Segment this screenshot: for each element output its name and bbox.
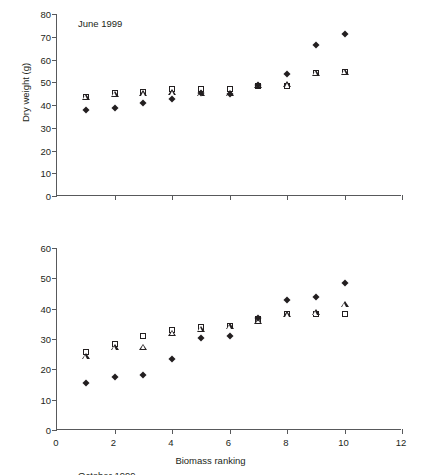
y-tick <box>52 248 57 249</box>
x-tick-label: 8 <box>283 437 288 448</box>
x-tick <box>402 429 403 434</box>
y-tick-label: 30 <box>40 334 51 345</box>
y-tick-label: 20 <box>40 145 51 156</box>
x-tick <box>230 429 231 434</box>
data-point-triangle <box>168 89 176 95</box>
y-tick <box>52 37 57 38</box>
y-tick-label: 60 <box>40 54 51 65</box>
data-point-triangle <box>139 344 147 350</box>
y-tick <box>52 369 57 370</box>
x-tick <box>345 429 346 434</box>
x-tick-label: 6 <box>226 437 231 448</box>
y-tick-label: 40 <box>40 100 51 111</box>
data-point-triangle <box>283 81 291 87</box>
y-tick <box>52 196 57 197</box>
x-tick-label: 12 <box>396 437 407 448</box>
y-tick <box>52 400 57 401</box>
data-point-triangle <box>82 94 90 100</box>
data-point-diamond <box>168 355 175 362</box>
y-tick <box>52 339 57 340</box>
data-point-diamond <box>140 372 147 379</box>
y-tick <box>52 173 57 174</box>
x-tick <box>287 195 288 200</box>
data-point-triangle <box>226 323 234 329</box>
y-tick <box>52 278 57 279</box>
data-point-diamond <box>111 105 118 112</box>
y-tick <box>52 128 57 129</box>
y-tick-label: 0 <box>46 191 51 202</box>
x-tick <box>172 429 173 434</box>
data-point-diamond <box>82 107 89 114</box>
panel-title-october: October 1999 <box>78 470 136 475</box>
y-tick <box>52 430 57 431</box>
data-point-diamond <box>168 96 175 103</box>
data-point-diamond <box>226 333 233 340</box>
data-point-triangle <box>312 309 320 315</box>
data-point-diamond <box>312 42 319 49</box>
y-tick <box>52 82 57 83</box>
data-point-diamond <box>283 296 290 303</box>
data-point-diamond <box>341 279 348 286</box>
data-point-diamond <box>111 373 118 380</box>
data-point-triangle <box>139 90 147 96</box>
data-point-triangle <box>312 70 320 76</box>
y-tick-label: 70 <box>40 31 51 42</box>
data-point-triangle <box>111 91 119 97</box>
y-tick <box>52 151 57 152</box>
data-point-diamond <box>140 100 147 107</box>
data-point-diamond <box>283 71 290 78</box>
data-point-diamond <box>226 91 233 98</box>
y-tick-label: 10 <box>40 168 51 179</box>
y-tick-label: 60 <box>40 243 51 254</box>
x-tick <box>345 195 346 200</box>
x-tick <box>172 195 173 200</box>
data-point-diamond <box>341 31 348 38</box>
x-tick-label: 10 <box>338 437 349 448</box>
y-tick-label: 20 <box>40 364 51 375</box>
data-point-square <box>140 333 146 339</box>
y-tick-label: 10 <box>40 394 51 405</box>
data-point-square <box>342 311 348 317</box>
x-tick-label: 0 <box>53 437 58 448</box>
data-point-triangle <box>111 344 119 350</box>
y-tick-label: 30 <box>40 122 51 133</box>
y-tick <box>52 60 57 61</box>
data-point-triangle <box>168 330 176 336</box>
panel-june-1999: June 1999 Dry weight (g) 010203040506070… <box>0 0 421 225</box>
x-tick <box>402 195 403 200</box>
y-axis-label-top: Dry weight (g) <box>20 63 31 122</box>
y-tick-label: 50 <box>40 77 51 88</box>
data-point-diamond <box>82 379 89 386</box>
x-tick-label: 4 <box>168 437 173 448</box>
y-tick <box>52 105 57 106</box>
x-axis-label: Biomass ranking <box>0 455 421 466</box>
y-tick <box>52 14 57 15</box>
y-tick-label: 80 <box>40 9 51 20</box>
figure-scatter-panels: June 1999 Dry weight (g) 010203040506070… <box>0 0 421 475</box>
data-point-triangle <box>283 311 291 317</box>
y-tick-label: 0 <box>46 425 51 436</box>
plot-area-june <box>56 14 401 196</box>
x-tick <box>115 429 116 434</box>
y-tick-label: 50 <box>40 273 51 284</box>
data-point-triangle <box>197 326 205 332</box>
panel-october-1999: October 1999 Dry weight (g) 010203040506… <box>0 228 421 475</box>
y-tick-label: 40 <box>40 303 51 314</box>
data-point-diamond <box>312 294 319 301</box>
y-tick <box>52 309 57 310</box>
x-tick <box>230 195 231 200</box>
data-point-triangle <box>82 353 90 359</box>
x-tick <box>287 429 288 434</box>
x-tick-label: 2 <box>111 437 116 448</box>
data-point-triangle <box>341 301 349 307</box>
plot-area-october <box>56 248 401 430</box>
data-point-triangle <box>341 69 349 75</box>
data-point-diamond <box>197 334 204 341</box>
x-tick <box>115 195 116 200</box>
